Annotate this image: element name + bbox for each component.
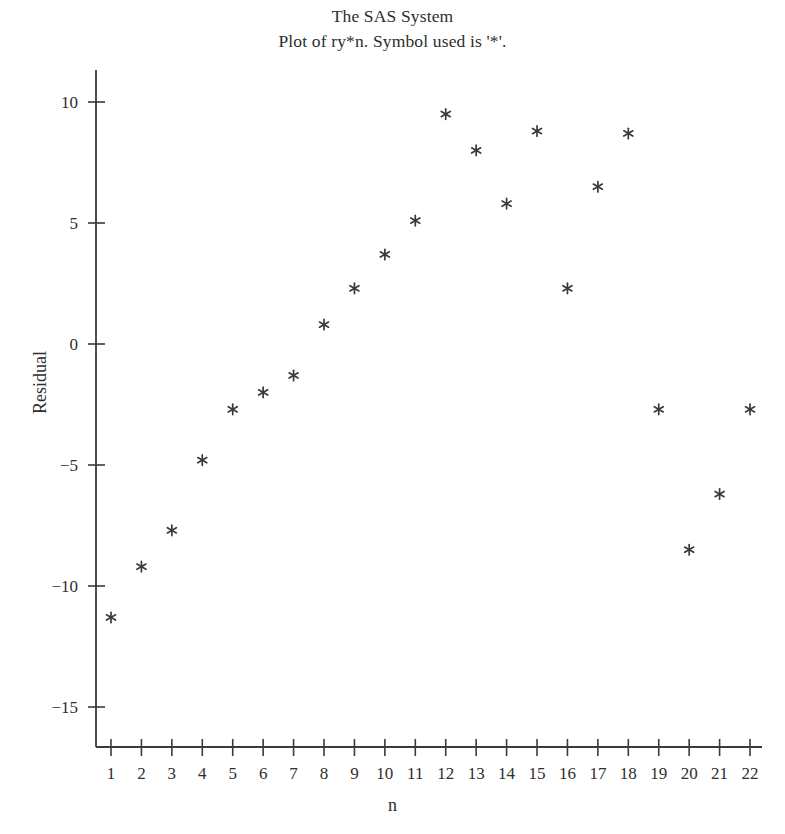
- y-axis-ticks: 1050−5−10−15: [51, 93, 105, 717]
- data-point: [715, 489, 724, 499]
- x-tick-label: 1: [107, 764, 116, 783]
- data-point: [380, 249, 389, 259]
- x-tick-label: 14: [498, 764, 516, 783]
- data-point: [746, 404, 755, 414]
- scatter-plot-figure: The SAS System Plot of ry*n. Symbol used…: [0, 0, 785, 834]
- data-point-markers: [106, 109, 754, 623]
- data-point: [411, 215, 420, 225]
- x-tick-label: 2: [137, 764, 146, 783]
- data-point: [685, 545, 694, 555]
- x-tick-label: 20: [681, 764, 698, 783]
- data-point: [228, 404, 237, 414]
- x-tick-label: 10: [376, 764, 393, 783]
- x-tick-label: 3: [168, 764, 177, 783]
- data-point: [624, 128, 633, 138]
- data-point: [320, 319, 329, 329]
- plot-area: 1050−5−10−15 123456789101112131415161718…: [0, 0, 785, 834]
- data-point: [259, 387, 268, 397]
- y-tick-label: 10: [61, 93, 78, 112]
- data-point: [563, 283, 572, 293]
- data-point: [198, 455, 207, 465]
- data-point: [654, 404, 663, 414]
- y-tick-label: 0: [70, 335, 79, 354]
- x-tick-label: 18: [620, 764, 637, 783]
- data-point: [106, 612, 115, 622]
- y-tick-label: 5: [70, 214, 79, 233]
- x-tick-label: 15: [529, 764, 546, 783]
- data-point: [350, 283, 359, 293]
- data-point: [593, 182, 602, 192]
- x-tick-label: 5: [228, 764, 237, 783]
- data-point: [472, 145, 481, 155]
- axis-lines: [96, 70, 762, 747]
- x-axis-ticks: 12345678910111213141516171819202122: [107, 739, 759, 783]
- y-tick-label: −15: [51, 698, 78, 717]
- x-tick-label: 17: [589, 764, 607, 783]
- x-tick-label: 22: [742, 764, 759, 783]
- x-tick-label: 16: [559, 764, 576, 783]
- x-tick-label: 4: [198, 764, 207, 783]
- data-point: [289, 370, 298, 380]
- y-tick-label: −10: [51, 577, 78, 596]
- data-point: [533, 126, 542, 136]
- data-point: [441, 109, 450, 119]
- data-point: [137, 561, 146, 571]
- x-tick-label: 21: [711, 764, 728, 783]
- x-tick-label: 12: [437, 764, 454, 783]
- y-tick-label: −5: [60, 456, 78, 475]
- x-tick-label: 9: [350, 764, 359, 783]
- x-tick-label: 19: [650, 764, 667, 783]
- x-tick-label: 7: [289, 764, 298, 783]
- x-tick-label: 6: [259, 764, 268, 783]
- data-point: [167, 525, 176, 535]
- x-tick-label: 11: [407, 764, 423, 783]
- x-tick-label: 8: [320, 764, 329, 783]
- data-point: [502, 198, 511, 208]
- x-tick-label: 13: [468, 764, 485, 783]
